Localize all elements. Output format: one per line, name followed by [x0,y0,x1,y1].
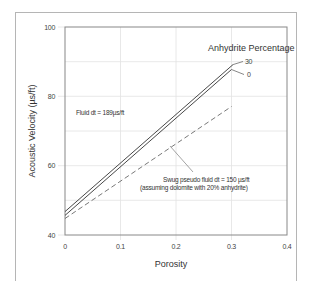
pseudo-fluid-assumption: (assuming dolomite with 20% anhydrite) [140,184,248,192]
x-tick-0.1: 0.1 [116,243,125,250]
fluid-dt-annotation: Fluid dt = 189µs/ft [76,109,125,117]
legend-label-30: 30 [245,58,253,65]
chart: 100 80 60 40 0 0.1 0.2 0.3 0.4 Porosity … [0,0,309,291]
series-pseudo-dashed-line [65,107,232,219]
leader-0 [232,70,245,75]
y-tick-40: 40 [48,232,56,239]
x-tick-0.4: 0.4 [283,243,292,250]
y-axis-label: Acoustic Velocity (µs/ft) [27,84,37,177]
pseudo-leader [170,146,193,172]
grid [58,27,287,240]
x-tick-0.2: 0.2 [172,243,181,250]
legend-title: Anhydrite Percentage [208,43,295,53]
y-tick-100: 100 [44,24,55,31]
legend-label-0: 0 [247,71,251,78]
pseudo-fluid-annotation: Swug pseudo fluid dt = 150 µs/ft [163,176,250,184]
y-tick-60: 60 [48,162,56,169]
x-tick-0: 0 [63,243,67,250]
y-tick-80: 80 [48,93,56,100]
series-0-line [65,70,232,216]
x-axis-label: Porosity [155,259,188,269]
x-tick-0.3: 0.3 [227,243,236,250]
